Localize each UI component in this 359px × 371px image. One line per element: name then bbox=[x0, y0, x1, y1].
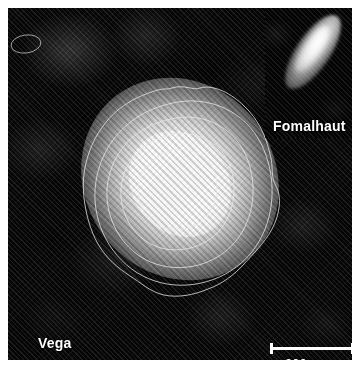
vega-image-panel: Vega 300 au Fomalhaut bbox=[8, 8, 352, 360]
scale-bar-line bbox=[270, 347, 352, 350]
scale-bar-label: 300 au bbox=[285, 356, 325, 360]
scale-bar-cap-left bbox=[270, 343, 273, 354]
scale-bar-cap-right bbox=[351, 343, 352, 354]
astronomy-figure: Vega 300 au Fomalhaut bbox=[0, 0, 359, 371]
fomalhaut-source-label: Fomalhaut bbox=[273, 118, 346, 134]
vega-source-label: Vega bbox=[38, 335, 72, 351]
scale-bar bbox=[270, 343, 352, 354]
